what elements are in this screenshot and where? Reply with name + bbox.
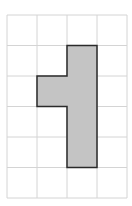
grid-diagram — [0, 0, 132, 206]
shaded-polyomino — [37, 46, 97, 168]
